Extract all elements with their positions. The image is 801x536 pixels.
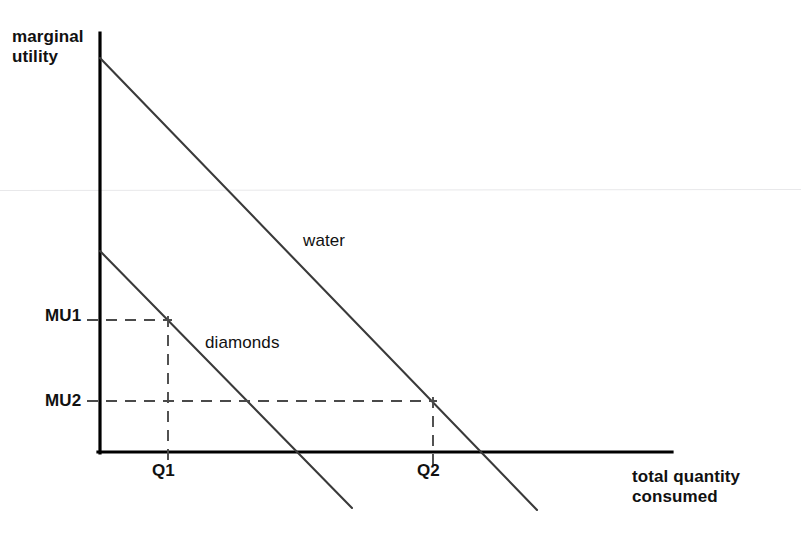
y-tick-label-mu2: MU2 — [45, 391, 81, 411]
x-axis-label-line1: total quantity — [632, 467, 740, 486]
y-axis-label: marginalutility — [12, 27, 84, 67]
marginal-utility-chart: marginalutility total quantityconsumed M… — [0, 0, 801, 536]
diamonds-curve — [100, 251, 352, 508]
y-axis-label-line1: marginal — [12, 27, 84, 46]
water-curve-label: water — [303, 231, 345, 251]
diamonds-curve-label: diamonds — [205, 333, 280, 353]
x-axis-label-line2: consumed — [632, 487, 718, 506]
scan-artifact-line — [0, 190, 801, 191]
water-curve — [100, 58, 537, 510]
x-axis-label: total quantityconsumed — [632, 467, 740, 507]
chart-canvas — [0, 0, 801, 536]
y-axis-label-line2: utility — [12, 47, 58, 66]
x-tick-label-q1: Q1 — [152, 461, 175, 481]
x-tick-label-q2: Q2 — [417, 461, 440, 481]
y-tick-label-mu1: MU1 — [45, 306, 81, 326]
